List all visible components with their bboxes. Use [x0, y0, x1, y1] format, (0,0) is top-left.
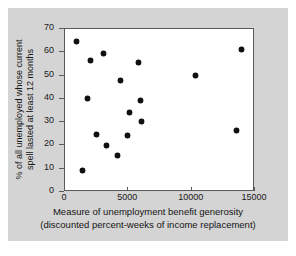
y-axis-title: % of all unemployed whose current spell … [12, 28, 38, 191]
data-point [125, 133, 130, 138]
data-point [136, 60, 141, 65]
data-point [138, 98, 143, 103]
data-point [74, 39, 79, 44]
y-axis-tick-mark [59, 98, 64, 99]
y-axis-tick-mark [59, 144, 64, 145]
data-point [80, 168, 85, 173]
x-axis-tick-mark [64, 187, 65, 191]
data-point [85, 96, 90, 101]
x-axis-title-line-2: (discounted percent-weeks of income repl… [14, 218, 282, 231]
y-axis-tick-label: 40 [44, 92, 54, 103]
x-axis-tick-mark [254, 187, 255, 191]
y-axis-tick-mark [59, 28, 64, 29]
x-axis-tick-label: 10000 [178, 192, 203, 203]
plot-area [64, 28, 254, 191]
figure-root: 010203040506070 050001000015000 % of all… [0, 0, 296, 256]
data-point [127, 110, 132, 115]
data-point [115, 153, 120, 158]
data-point [239, 47, 244, 52]
data-point [234, 128, 239, 133]
y-axis-tick-label: 50 [44, 69, 54, 80]
data-point [139, 119, 144, 124]
y-axis-tick-label: 30 [44, 115, 54, 126]
y-axis-tick-mark [59, 51, 64, 52]
data-point [104, 143, 109, 148]
y-axis-title-line-2: spell lasted at least 12 months [25, 49, 37, 170]
y-axis-title-line-1: % of all unemployed whose current [14, 39, 26, 179]
x-axis-tick-mark [127, 187, 128, 191]
data-point [101, 51, 106, 56]
x-axis-tick-label: 0 [61, 192, 66, 203]
y-axis-tick-label: 20 [44, 138, 54, 149]
y-axis-tick-label: 10 [44, 162, 54, 173]
y-axis-tick-label: 70 [44, 22, 54, 33]
data-point [118, 78, 123, 83]
data-point [193, 73, 198, 78]
x-axis-title-line-1: Measure of unemployment benefit generosi… [14, 205, 282, 218]
x-axis-tick-label: 5000 [117, 192, 137, 203]
y-axis-tick-mark [59, 75, 64, 76]
x-axis-tick-label: 15000 [241, 192, 266, 203]
data-point [88, 58, 93, 63]
data-point [94, 132, 99, 137]
y-axis-tick-mark [59, 168, 64, 169]
x-axis-tick-mark [191, 187, 192, 191]
y-axis-tick-mark [59, 121, 64, 122]
y-axis-tick-label: 60 [44, 45, 54, 56]
x-axis-title: Measure of unemployment benefit generosi… [14, 205, 282, 231]
